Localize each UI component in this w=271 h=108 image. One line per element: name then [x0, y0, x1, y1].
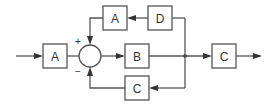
arrowhead-icon: [203, 53, 212, 59]
block-c-feedback: C: [125, 76, 149, 100]
block-diagram: A + − B D A: [0, 0, 271, 108]
block-label: D: [156, 12, 165, 26]
block-label: A: [51, 50, 59, 64]
block-a-input: A: [43, 44, 67, 68]
arrowhead-icon: [87, 67, 93, 76]
plus-sign: +: [75, 36, 81, 47]
arrowhead-icon: [34, 53, 43, 59]
block-b: B: [125, 44, 149, 68]
block-label: B: [133, 50, 141, 64]
wire-sum-to-b: [101, 53, 125, 59]
arrowhead-icon: [116, 53, 125, 59]
block-a-feedback: A: [103, 6, 127, 30]
input-arrow: [16, 53, 43, 59]
block-d: D: [148, 6, 172, 30]
wire-d-to-a: [127, 15, 148, 21]
wire-branch-to-c: [149, 85, 185, 91]
block-label: A: [111, 12, 119, 26]
arrowhead-icon: [127, 15, 136, 21]
arrowhead-icon: [253, 53, 262, 59]
arrowhead-icon: [149, 85, 158, 91]
wire-a-to-sum-plus: [87, 18, 103, 45]
block-label: C: [220, 50, 229, 64]
wire-c-to-sum-minus: [87, 67, 125, 88]
block-c-output: C: [212, 44, 236, 68]
wire-b-to-output-block: [149, 53, 212, 59]
block-label: C: [133, 82, 142, 96]
summing-junction: [79, 45, 101, 67]
output-arrow: [236, 53, 262, 59]
minus-sign: −: [75, 66, 81, 77]
arrowhead-icon: [87, 36, 93, 45]
